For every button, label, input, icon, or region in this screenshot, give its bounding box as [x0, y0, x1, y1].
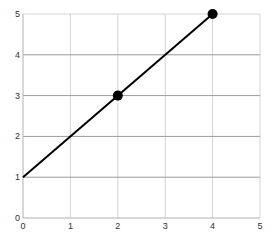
- y-tick-label: 1: [15, 172, 20, 182]
- y-tick-label: 5: [15, 9, 20, 19]
- grid-lines: [23, 14, 260, 218]
- y-tick-label: 4: [15, 50, 20, 60]
- x-tick-label: 4: [210, 221, 215, 231]
- y-tick-label: 2: [15, 131, 20, 141]
- data-point-marker: [208, 9, 218, 19]
- y-tick-label: 3: [15, 91, 20, 101]
- y-tick-label: 0: [15, 213, 20, 223]
- data-point-marker: [113, 91, 123, 101]
- line-chart: 012345012345: [0, 0, 276, 237]
- data-series: [23, 9, 218, 177]
- x-tick-label: 1: [68, 221, 73, 231]
- tick-labels: 012345012345: [15, 9, 263, 231]
- axes: [23, 14, 260, 218]
- x-tick-label: 5: [257, 221, 262, 231]
- x-tick-label: 0: [20, 221, 25, 231]
- x-tick-label: 2: [115, 221, 120, 231]
- x-tick-label: 3: [163, 221, 168, 231]
